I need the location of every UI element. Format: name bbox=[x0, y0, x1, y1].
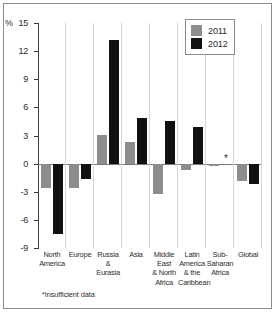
bar bbox=[237, 164, 247, 181]
bar bbox=[153, 164, 163, 194]
x-axis-label-line: Latin bbox=[178, 250, 206, 259]
x-axis-label-line: Sub- bbox=[206, 250, 234, 259]
bar bbox=[125, 142, 135, 164]
x-axis-label: Sub-SaharanAfrica bbox=[206, 250, 234, 278]
y-tick-label: 15 bbox=[18, 18, 28, 28]
legend-item-2012: 2012 bbox=[191, 37, 228, 50]
x-axis-label-line: & bbox=[94, 259, 122, 268]
bar bbox=[181, 164, 191, 171]
x-axis-label: NorthAmerica bbox=[38, 250, 66, 268]
y-tick-label: 3 bbox=[23, 131, 28, 141]
x-axis-label-line: Africa bbox=[206, 268, 234, 277]
x-axis-label: MiddleEast& NorthAfrica bbox=[150, 250, 178, 287]
x-axis-label: Global bbox=[234, 250, 262, 259]
legend-swatch-2012 bbox=[191, 38, 202, 49]
x-axis-label-line: & the bbox=[178, 268, 206, 277]
chart-footnote: *Insufficient data bbox=[42, 290, 95, 299]
bar bbox=[97, 135, 107, 164]
x-axis-label-line: & North bbox=[150, 268, 178, 277]
x-axis-label-line: Saharan bbox=[206, 259, 234, 268]
x-axis-label-line: America bbox=[178, 259, 206, 268]
bar-group bbox=[206, 23, 234, 248]
y-tick-label: 0 bbox=[23, 159, 28, 169]
legend-item-2011: 2011 bbox=[191, 24, 228, 37]
x-axis-label: Russia&Eurasia bbox=[94, 250, 122, 278]
chart-legend: 2011 2012 bbox=[185, 19, 235, 55]
legend-label-2011: 2011 bbox=[208, 26, 227, 36]
bar bbox=[41, 164, 51, 188]
y-tick-label: -9 bbox=[20, 243, 28, 253]
bar bbox=[209, 164, 219, 167]
y-tick-label: -3 bbox=[20, 187, 28, 197]
x-axis-label-line: America bbox=[38, 259, 66, 268]
x-axis-label-line: Caribbean bbox=[178, 278, 206, 287]
x-axis-label: Asia bbox=[122, 250, 150, 259]
x-axis-label-line: East bbox=[150, 259, 178, 268]
y-tick-label: 9 bbox=[23, 74, 28, 84]
x-axis-label-line: Eurasia bbox=[94, 268, 122, 277]
legend-swatch-2011 bbox=[191, 25, 202, 36]
x-axis-label: LatinAmerica& theCaribbean bbox=[178, 250, 206, 287]
bar bbox=[137, 118, 147, 164]
bar bbox=[69, 164, 79, 188]
x-axis-label-line: Asia bbox=[122, 250, 150, 259]
x-axis-label-line: Africa bbox=[150, 278, 178, 287]
x-axis-label: Europe bbox=[66, 250, 94, 259]
bar bbox=[193, 127, 203, 164]
x-axis-label-line: Middle bbox=[150, 250, 178, 259]
x-axis-label-line: Russia bbox=[94, 250, 122, 259]
y-tick-label: -6 bbox=[20, 215, 28, 225]
bar bbox=[81, 164, 91, 179]
plot-area: 15129630-3-6-9 % * bbox=[38, 23, 262, 248]
bar bbox=[53, 164, 63, 234]
legend-label-2012: 2012 bbox=[208, 39, 228, 49]
bar bbox=[249, 164, 259, 185]
chart-figure: 15129630-3-6-9 % * NorthAmericaEuropeRus… bbox=[0, 0, 275, 312]
y-tick-label: 12 bbox=[18, 46, 28, 56]
x-axis-label-line: Europe bbox=[66, 250, 94, 259]
bar-group bbox=[66, 23, 94, 248]
y-tick-label: 6 bbox=[23, 102, 28, 112]
x-axis-label-line: Global bbox=[234, 250, 262, 259]
x-axis-label-line: North bbox=[38, 250, 66, 259]
bar-group bbox=[234, 23, 262, 248]
y-tick-neg9: -9 bbox=[34, 248, 39, 249]
bar bbox=[165, 121, 175, 164]
insufficient-data-marker: * bbox=[224, 154, 228, 164]
bar bbox=[109, 40, 119, 164]
y-axis-unit-label: % bbox=[5, 18, 13, 28]
